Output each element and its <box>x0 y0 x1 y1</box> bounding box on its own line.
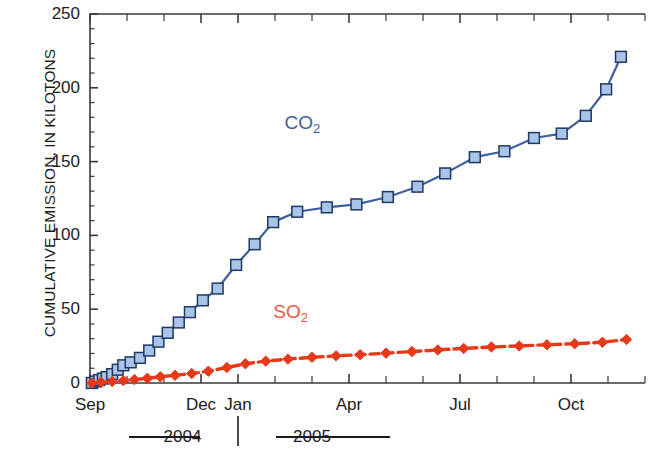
data-point-marker <box>173 317 184 328</box>
data-point-marker <box>222 362 232 372</box>
data-point-marker <box>268 217 279 228</box>
x-axis-tick-label: Jul <box>420 396 500 413</box>
data-point-marker <box>440 168 451 179</box>
data-point-marker <box>170 370 180 380</box>
x-axis-tick-label: Apr <box>309 396 389 413</box>
data-point-marker <box>459 343 469 353</box>
data-point-marker <box>580 110 591 121</box>
x-axis-tick-label: Sep <box>50 396 130 413</box>
data-point-marker <box>187 368 197 378</box>
y-axis-tick-label: 250 <box>30 5 80 22</box>
data-point-marker <box>381 348 391 358</box>
series-markers-co2 <box>86 51 626 388</box>
plot-area <box>0 0 651 449</box>
data-point-marker <box>514 341 524 351</box>
data-point-marker <box>601 84 612 95</box>
data-point-marker <box>203 366 213 376</box>
data-point-marker <box>433 345 443 355</box>
data-point-marker <box>162 327 173 338</box>
series-markers-so2 <box>87 334 632 388</box>
x-axis-tick-label: Jan <box>198 396 278 413</box>
series-label-so2: SO2 <box>273 302 308 321</box>
data-point-marker <box>556 128 567 139</box>
data-point-marker <box>621 334 631 344</box>
data-point-marker <box>570 339 580 349</box>
x-axis-tick-label: Oct <box>531 396 611 413</box>
year-label: 2005 <box>282 428 342 445</box>
data-point-marker <box>249 239 260 250</box>
y-axis-tick-label: 100 <box>30 226 80 243</box>
year-label: 2004 <box>153 428 213 445</box>
data-point-marker <box>616 51 627 62</box>
data-point-marker <box>529 133 540 144</box>
data-point-marker <box>542 340 552 350</box>
data-point-marker <box>292 206 303 217</box>
y-axis-tick-label: 50 <box>30 300 80 317</box>
data-point-marker <box>499 146 510 157</box>
data-point-marker <box>486 342 496 352</box>
y-axis-tick-label: 150 <box>30 153 80 170</box>
data-point-marker <box>407 346 417 356</box>
data-point-marker <box>212 283 223 294</box>
data-point-marker <box>261 356 271 366</box>
data-point-marker <box>142 373 152 383</box>
data-point-marker <box>382 192 393 203</box>
data-point-marker <box>412 181 423 192</box>
data-point-marker <box>240 359 250 369</box>
data-point-marker <box>231 260 242 271</box>
data-point-marker <box>351 199 362 210</box>
data-point-marker <box>321 202 332 213</box>
data-point-marker <box>355 349 365 359</box>
y-axis-tick-label: 200 <box>30 79 80 96</box>
y-axis-title: CUMULATIVE EMISSION, IN KILOTONS <box>41 3 59 383</box>
data-point-marker <box>469 152 480 163</box>
data-point-marker <box>307 352 317 362</box>
data-point-marker <box>597 337 607 347</box>
data-point-marker <box>331 351 341 361</box>
emissions-chart-figure: CUMULATIVE EMISSION, IN KILOTONS 0501001… <box>0 0 651 449</box>
data-point-marker <box>197 295 208 306</box>
y-axis-tick-label: 0 <box>30 374 80 391</box>
data-point-marker <box>283 354 293 364</box>
data-point-marker <box>185 307 196 318</box>
series-label-co2: CO2 <box>284 113 320 132</box>
